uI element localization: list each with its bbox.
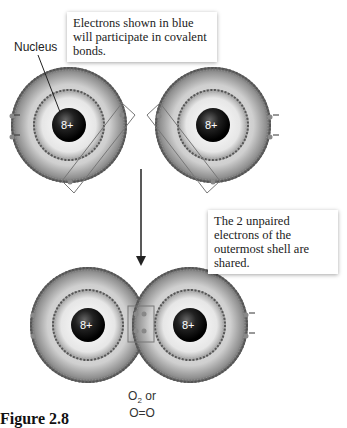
callout-blue-electrons: Electrons shown in blue will participate…	[67, 12, 217, 62]
figure-caption: Figure 2.8	[0, 410, 69, 428]
nucleus-label: Nucleus	[14, 40, 57, 54]
callout-shared-electrons: The 2 unpaired electrons of the outermos…	[208, 210, 338, 274]
nucleus-charge-right-top: 8+	[205, 119, 218, 131]
formula-or: or	[142, 389, 156, 403]
nucleus-charge-left-top: 8+	[61, 119, 74, 131]
molecule-formula: O2 or O=O	[122, 390, 162, 420]
nucleus-charge-left-bottom: 8+	[80, 319, 93, 331]
nucleus-charge-right-bottom: 8+	[182, 319, 195, 331]
formula-double-bond: O=O	[122, 407, 162, 420]
